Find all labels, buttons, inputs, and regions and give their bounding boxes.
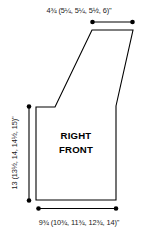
piece-label-line-1: RIGHT [61, 130, 92, 141]
left-height-dimension-label: 13 (13½, 14, 14½, 15)" [10, 116, 19, 190]
top-width-dimension-label: 4¾ (5¼, 5¼, 5½, 6)" [46, 6, 112, 15]
bottom-dimension-dot-right [114, 206, 119, 211]
left-dimension-dot-top [27, 104, 32, 109]
garment-schematic-diagram: 4¾ (5¼, 5¼, 5½, 6)" RIGHT FRONT 13 (13½,… [0, 0, 158, 240]
top-dimension-line [90, 20, 135, 25]
top-dimension-dot-left [90, 20, 95, 25]
bottom-dimension-dot-left [36, 206, 41, 211]
left-height-dimension-line [27, 104, 32, 203]
right-front-piece-outline [36, 30, 133, 200]
bottom-dimension-line [36, 206, 118, 211]
piece-label-line-2: FRONT [59, 144, 93, 155]
top-dimension-dot-right [130, 20, 135, 25]
left-dimension-dot-bottom [27, 198, 32, 203]
bottom-width-dimension-label: 9¾ (10¾, 11¾, 12¾, 14)" [39, 218, 120, 227]
